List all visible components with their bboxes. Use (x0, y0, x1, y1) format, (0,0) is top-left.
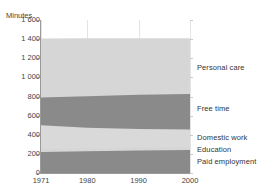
plot-area (41, 20, 190, 173)
series-label-domestic-work: Domestic work (197, 133, 247, 142)
series-label-education: Education (197, 145, 231, 154)
area-band (41, 20, 190, 173)
y-tick-mark-right (190, 77, 193, 78)
x-tick-label: 1990 (130, 176, 147, 185)
series-label-paid-employment: Paid employment (197, 157, 256, 166)
stacked-area-bands (41, 20, 190, 173)
x-tick-label: 2000 (182, 176, 199, 185)
y-tick-mark-right (190, 173, 193, 174)
series-label-personal-care: Personal care (197, 63, 245, 72)
y-tick-mark-right (190, 97, 193, 98)
x-tick-label: 1980 (79, 176, 96, 185)
y-tick-mark-right (190, 20, 193, 21)
y-tick-mark-right (190, 58, 193, 59)
y-tick-mark-right (190, 39, 193, 40)
y-tick-mark-right (190, 116, 193, 117)
x-tick-label: 1971 (33, 176, 50, 185)
y-tick-mark-right (190, 135, 193, 136)
series-label-free-time: Free time (197, 104, 230, 113)
y-tick-mark-right (190, 154, 193, 155)
